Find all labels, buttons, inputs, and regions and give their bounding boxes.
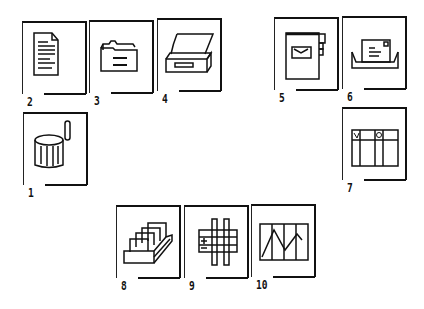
icon-number: 3 — [94, 94, 100, 108]
tile-underline — [206, 277, 248, 279]
icon-tile-wastebasket[interactable]: 1 — [23, 112, 87, 200]
icon-tile-in-tray[interactable]: 6 — [342, 16, 406, 104]
icon-tile-folder[interactable]: 3 — [89, 20, 153, 108]
wastebasket-icon — [27, 118, 83, 180]
icon-number: 5 — [279, 91, 285, 105]
spreadsheet-icon — [188, 211, 244, 273]
document-icon — [26, 27, 82, 89]
icon-number: 9 — [189, 279, 195, 293]
tile-underline — [364, 179, 406, 181]
tile-underline — [111, 92, 153, 94]
icon-number: 8 — [121, 279, 127, 293]
icon-tile-table[interactable]: 7 — [342, 107, 406, 195]
card-file-icon — [120, 211, 176, 273]
icon-tile-spreadsheet[interactable]: 9 — [184, 205, 248, 293]
icon-tile-card-file[interactable]: 8 — [116, 205, 180, 293]
tile-underline — [138, 277, 180, 279]
icon-number: 2 — [27, 95, 33, 109]
tile-underline — [44, 93, 86, 95]
tile-underline — [273, 276, 315, 278]
table-icon — [346, 113, 402, 175]
icon-number: 10 — [256, 278, 268, 292]
printer-icon — [161, 24, 217, 86]
tile-underline — [179, 90, 221, 92]
icon-tile-document[interactable]: 2 — [22, 21, 86, 109]
icon-number: 1 — [28, 186, 34, 200]
tile-underline — [364, 88, 406, 90]
tile-underline — [296, 89, 338, 91]
folder-icon — [93, 26, 149, 88]
tile-underline — [45, 184, 87, 186]
icon-number: 6 — [347, 90, 353, 104]
in-tray-icon — [346, 22, 402, 84]
icon-number: 7 — [347, 181, 353, 195]
mailbox-icon — [278, 23, 334, 85]
icon-tile-mailbox[interactable]: 5 — [274, 17, 338, 105]
icon-number: 4 — [162, 92, 168, 106]
chart-icon — [255, 210, 311, 272]
icon-tile-printer[interactable]: 4 — [157, 18, 221, 106]
icon-tile-chart[interactable]: 10 — [251, 204, 315, 292]
